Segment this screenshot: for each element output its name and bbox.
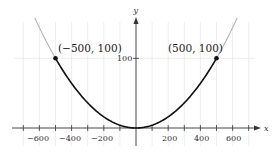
x-axis-arrow-icon: [254, 126, 261, 131]
x-tick-label: 600: [226, 134, 241, 143]
point-left-label: (−500, 100): [58, 42, 122, 54]
axes: x y: [12, 6, 269, 146]
x-tick-label: −600: [27, 134, 49, 143]
point-right-marker: [214, 56, 219, 61]
x-tick-label: −200: [91, 134, 113, 143]
curve-extension-left: [35, 18, 56, 58]
x-tick-label: 200: [162, 134, 177, 143]
parabola-chart: x y 100 −600 −400 −200 200 400 600 (−500…: [0, 0, 275, 152]
y-tick-label-100: 100: [117, 54, 132, 63]
point-left-marker: [53, 56, 58, 61]
point-right-label: (500, 100): [168, 42, 223, 54]
x-tick-label: −400: [59, 134, 81, 143]
y-axis-arrow-icon: [134, 17, 139, 24]
x-tick-labels: −600 −400 −200 200 400 600: [27, 134, 241, 143]
x-axis-label: x: [264, 124, 269, 133]
y-axis-label: y: [133, 6, 139, 15]
x-tick-label: 400: [194, 134, 209, 143]
